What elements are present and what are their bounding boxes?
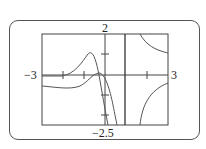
x-min-label: −3 — [24, 69, 37, 81]
x-max-label: 3 — [171, 69, 177, 81]
y-min-label: −2.5 — [92, 127, 114, 139]
y-max-label: 2 — [102, 22, 108, 34]
